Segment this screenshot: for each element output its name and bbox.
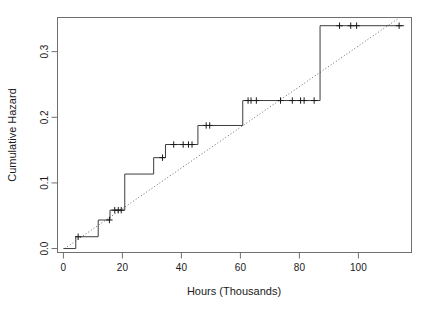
- x-tick-label: 0: [61, 262, 67, 273]
- y-tick-label: 0.3: [39, 44, 50, 58]
- plot-canvas: 020406080100 0.00.10.20.3 Hours (Thousan…: [0, 0, 425, 310]
- x-tick-label: 60: [235, 262, 247, 273]
- y-tick-label: 0.0: [39, 241, 50, 255]
- y-axis-title: Cumulative Hazard: [6, 88, 18, 182]
- x-tick-label: 20: [117, 262, 129, 273]
- y-tick-label: 0.2: [39, 110, 50, 124]
- x-tick-label: 40: [176, 262, 188, 273]
- x-tick-label: 80: [294, 262, 306, 273]
- x-axis-title: Hours (Thousands): [187, 285, 281, 297]
- cumulative-hazard-chart: 020406080100 0.00.10.20.3 Hours (Thousan…: [0, 0, 425, 310]
- y-tick-label: 0.1: [39, 176, 50, 190]
- x-tick-label: 100: [350, 262, 367, 273]
